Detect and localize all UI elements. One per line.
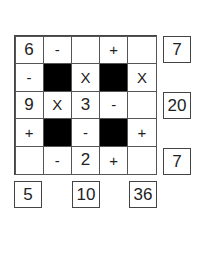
operator-cell: - [43, 146, 72, 175]
col-3-result: 10 [72, 181, 100, 208]
operator-cell: - [43, 36, 72, 65]
operator-cell: X [43, 91, 72, 120]
empty-number-cell[interactable] [127, 91, 156, 120]
blocked-cell [99, 63, 128, 92]
row-5-result: 7 [163, 148, 191, 175]
given-number-cell: 3 [71, 91, 100, 120]
empty-number-cell[interactable] [127, 146, 156, 175]
given-number-cell: 9 [15, 91, 44, 120]
operator-cell: + [99, 146, 128, 175]
operator-cell: X [127, 63, 156, 92]
operator-cell: - [99, 91, 128, 120]
blocked-cell [99, 118, 128, 147]
operator-cell: + [127, 118, 156, 147]
empty-number-cell[interactable] [15, 146, 44, 175]
col-1-result: 5 [14, 181, 42, 208]
operator-cell: + [15, 118, 44, 147]
operator-cell: - [71, 118, 100, 147]
given-number-cell: 2 [71, 146, 100, 175]
puzzle-grid: 6-+-XX9X3-+-+-2+ [14, 35, 157, 175]
empty-number-cell[interactable] [127, 36, 156, 65]
empty-number-cell[interactable] [71, 36, 100, 65]
blocked-cell [43, 63, 72, 92]
blocked-cell [43, 118, 72, 147]
col-5-result: 36 [129, 181, 157, 208]
operator-cell: X [71, 63, 100, 92]
row-1-result: 7 [163, 36, 191, 63]
row-3-result: 20 [163, 92, 191, 119]
operator-cell: - [15, 63, 44, 92]
operator-cell: + [99, 36, 128, 65]
given-number-cell: 6 [15, 36, 44, 65]
